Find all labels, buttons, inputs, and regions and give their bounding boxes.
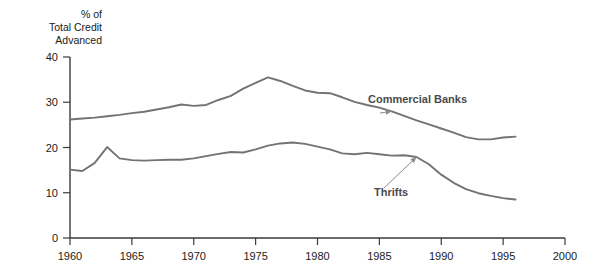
y-tick-label: 30 [46, 96, 58, 108]
x-tick-label: 1970 [182, 250, 206, 262]
y-axis-ticks: 010203040 [46, 51, 70, 244]
y-tick-label: 0 [52, 232, 58, 244]
x-tick-label: 2000 [553, 250, 577, 262]
y-tick-label: 20 [46, 142, 58, 154]
x-tick-label: 1990 [429, 250, 453, 262]
chart-container: % of Total Credit Advanced 010203040 196… [0, 0, 596, 277]
x-tick-label: 1980 [305, 250, 329, 262]
x-tick-label: 1960 [58, 250, 82, 262]
x-axis-ticks: 196019651970197519801985199019952000 [58, 238, 577, 262]
series-line-thrifts [70, 143, 516, 200]
y-tick-label: 10 [46, 187, 58, 199]
series-line-commercial-banks [70, 77, 516, 139]
series-label-commercial-banks: Commercial Banks [368, 93, 467, 105]
series-label-thrifts: Thrifts [374, 186, 408, 198]
y-tick-label: 40 [46, 51, 58, 63]
annotation-leader-line [384, 157, 417, 188]
x-tick-label: 1965 [120, 250, 144, 262]
x-tick-label: 1995 [491, 250, 515, 262]
chart-plot-area: 010203040 196019651970197519801985199019… [0, 0, 596, 277]
x-tick-label: 1975 [243, 250, 267, 262]
x-tick-label: 1985 [367, 250, 391, 262]
